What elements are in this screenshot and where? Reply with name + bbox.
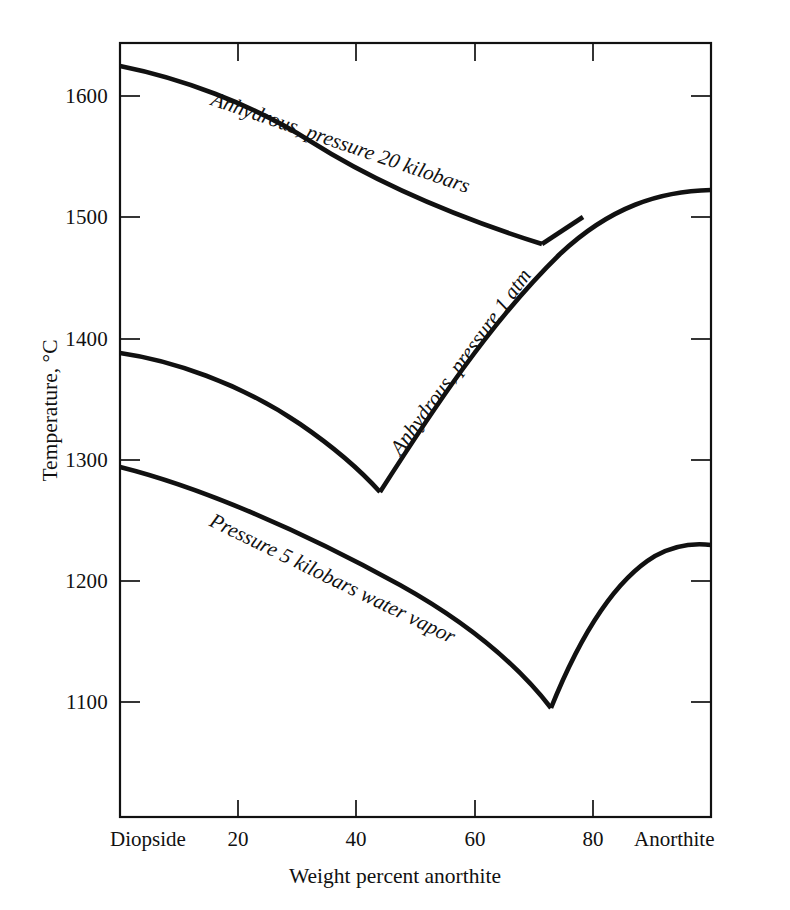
y-axis-ticks	[120, 96, 140, 702]
curve-5-kbar-water-vapor-anorthite-branch	[551, 544, 711, 708]
x-axis-ticks-top	[238, 43, 593, 61]
ytick-label-1600: 1600	[28, 84, 108, 109]
xtick-label-80: 80	[553, 827, 633, 852]
xtick-label-60: 60	[435, 827, 515, 852]
curve-anhydrous-20-kbar	[120, 66, 542, 244]
phase-diagram-figure: 1600 1500 1400 1300 1200 1100 20 40 60 8…	[0, 0, 790, 910]
y-axis-ticks-right	[691, 96, 711, 702]
xtick-label-anorthite: Anorthite	[634, 827, 714, 852]
x-axis-title: Weight percent anorthite	[0, 864, 790, 889]
curve-anhydrous-1-atm-anorthite-branch	[380, 190, 711, 492]
plot-svg	[0, 0, 790, 910]
xtick-label-20: 20	[198, 827, 278, 852]
curve-anhydrous-1-atm	[120, 353, 380, 492]
y-axis-title: Temperature, °C	[38, 301, 63, 521]
x-axis-ticks-bottom	[238, 800, 593, 817]
ytick-label-1200: 1200	[28, 569, 108, 594]
ytick-label-1500: 1500	[28, 205, 108, 230]
xtick-label-40: 40	[316, 827, 396, 852]
ytick-label-1100: 1100	[28, 690, 108, 715]
xtick-label-diopside: Diopside	[110, 827, 186, 852]
